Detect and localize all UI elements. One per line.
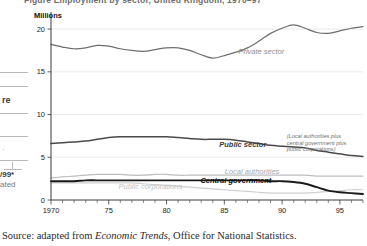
y-tick-label: 15 bbox=[37, 67, 45, 76]
y-tick-label: 0 bbox=[41, 196, 45, 205]
employment-by-sector-chart: 0510152019707580859095 Private sectorPub… bbox=[0, 4, 367, 226]
annotation-central-government: Central government bbox=[200, 176, 271, 185]
series-lines bbox=[51, 25, 363, 194]
chart-svg: 0510152019707580859095 Private sectorPub… bbox=[0, 4, 367, 226]
x-tick-label: 85 bbox=[220, 206, 228, 215]
x-tick-label: 75 bbox=[105, 206, 113, 215]
tick-labels: 0510152019707580859095 bbox=[37, 25, 344, 215]
annotation-public-sector-note-line-3: public corporations) bbox=[286, 146, 336, 152]
annotation-public-sector: Public sector bbox=[219, 140, 267, 149]
annotation-public-sector-note-line-1: (Local authorities plus bbox=[287, 133, 342, 139]
annotation-public-corporations: Public corporations bbox=[118, 182, 182, 191]
y-axis-title: Millions bbox=[34, 11, 62, 20]
annotation-private-sector: Private sector bbox=[238, 47, 284, 56]
series-annotations: Private sectorPublic sector(Local author… bbox=[118, 47, 346, 191]
y-tick-label: 5 bbox=[41, 153, 45, 162]
y-tick-label: 10 bbox=[37, 110, 45, 119]
y-tick-label: 20 bbox=[37, 25, 45, 34]
source-prefix: Source: adapted from bbox=[2, 230, 95, 241]
x-tick-label: 1970 bbox=[43, 206, 60, 215]
x-tick-label: 80 bbox=[162, 206, 170, 215]
x-tick-label: 95 bbox=[336, 206, 344, 215]
series-line-private-sector bbox=[51, 25, 363, 58]
source-suffix: , Office for National Statistics. bbox=[168, 230, 297, 241]
page-root: Figure Employment by sector, United King… bbox=[0, 0, 367, 246]
source-note: Source: adapted from Economic Trends, Of… bbox=[2, 230, 297, 241]
annotation-public-sector-note-line-2: central government plus bbox=[287, 140, 347, 146]
source-publication: Economic Trends bbox=[95, 230, 168, 241]
annotation-local-authorities: Local authorities bbox=[225, 167, 280, 176]
x-tick-label: 90 bbox=[278, 206, 286, 215]
